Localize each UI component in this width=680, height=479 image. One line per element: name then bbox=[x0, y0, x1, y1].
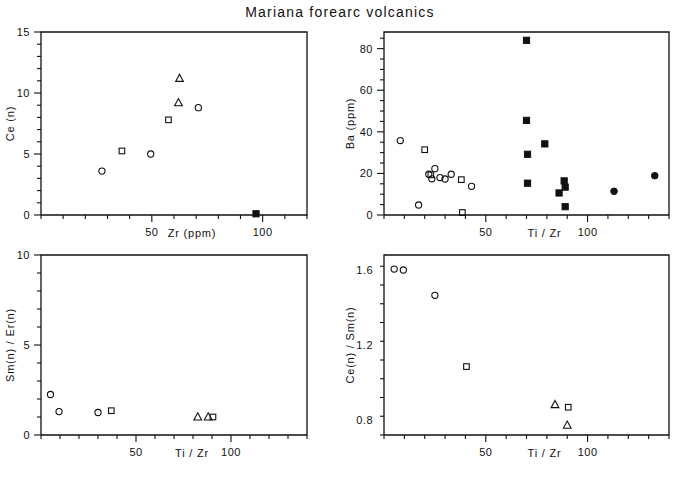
svg-text:40: 40 bbox=[360, 126, 373, 138]
data-point bbox=[448, 171, 454, 177]
svg-text:Ce(n) / Sm(n): Ce(n) / Sm(n) bbox=[344, 306, 356, 383]
data-point bbox=[562, 184, 568, 190]
panel-smer-tizr: 50100Ti / Zr0510Sm(n) / Er(n) bbox=[0, 245, 340, 479]
data-point bbox=[432, 292, 438, 298]
data-point bbox=[561, 178, 567, 184]
data-point bbox=[95, 409, 101, 415]
data-layer bbox=[397, 37, 658, 215]
data-point bbox=[432, 166, 438, 172]
data-point bbox=[391, 266, 397, 272]
data-point bbox=[397, 137, 403, 143]
data-layer bbox=[99, 74, 259, 217]
data-point bbox=[556, 190, 562, 196]
svg-text:Sm(n) / Er(n): Sm(n) / Er(n) bbox=[4, 308, 16, 382]
data-point bbox=[195, 105, 201, 111]
svg-text:Ba (ppm): Ba (ppm) bbox=[344, 98, 356, 150]
svg-text:1.2: 1.2 bbox=[356, 339, 373, 351]
data-point bbox=[563, 421, 571, 428]
series-filled-square bbox=[523, 37, 568, 210]
data-layer bbox=[391, 266, 571, 428]
svg-text:50: 50 bbox=[479, 226, 492, 238]
data-point bbox=[194, 413, 202, 420]
svg-text:100: 100 bbox=[578, 446, 598, 458]
series-open-square bbox=[119, 117, 171, 154]
data-point bbox=[468, 183, 474, 189]
series-open-circle bbox=[397, 137, 474, 208]
svg-text:10: 10 bbox=[17, 249, 30, 261]
data-point bbox=[611, 188, 618, 195]
data-point bbox=[99, 168, 105, 174]
svg-text:10: 10 bbox=[17, 87, 30, 99]
panel-cesm-tizr-svg: 50100Ti / Zr0.81.21.6Ce(n) / Sm(n) bbox=[340, 245, 680, 479]
panel-ce-zr: 50100Zr (ppm)051015Ce (n) bbox=[0, 22, 340, 262]
data-point bbox=[524, 151, 530, 157]
series-filled-square bbox=[253, 211, 259, 217]
svg-text:50: 50 bbox=[145, 226, 158, 238]
series-open-square bbox=[109, 408, 216, 420]
panel-ba-tizr-svg: 50100Ti / Zr020406080Ba (ppm) bbox=[340, 22, 680, 262]
svg-text:60: 60 bbox=[360, 84, 373, 96]
data-point bbox=[56, 409, 62, 415]
panel-cesm-tizr: 50100Ti / Zr0.81.21.6Ce(n) / Sm(n) bbox=[340, 245, 680, 479]
svg-text:0: 0 bbox=[23, 209, 30, 221]
data-point bbox=[551, 400, 559, 407]
panel-smer-tizr-svg: 50100Ti / Zr0510Sm(n) / Er(n) bbox=[0, 245, 340, 479]
data-layer bbox=[47, 391, 215, 420]
svg-text:0: 0 bbox=[23, 429, 30, 441]
data-point bbox=[464, 364, 470, 370]
data-point bbox=[562, 204, 568, 210]
svg-text:100: 100 bbox=[253, 226, 273, 238]
data-point bbox=[148, 151, 154, 157]
data-point bbox=[523, 117, 529, 123]
svg-text:0: 0 bbox=[366, 209, 373, 221]
svg-text:80: 80 bbox=[360, 43, 373, 55]
data-point bbox=[166, 117, 172, 123]
svg-text:50: 50 bbox=[479, 446, 492, 458]
svg-text:Zr (ppm): Zr (ppm) bbox=[168, 227, 217, 239]
svg-text:5: 5 bbox=[23, 339, 30, 351]
svg-text:100: 100 bbox=[221, 446, 241, 458]
data-point bbox=[253, 211, 259, 217]
svg-text:50: 50 bbox=[129, 446, 142, 458]
series-filled-circle bbox=[611, 172, 658, 194]
data-point bbox=[119, 148, 125, 154]
series-open-triangle bbox=[175, 74, 184, 106]
panel-ce-zr-svg: 50100Zr (ppm)051015Ce (n) bbox=[0, 22, 340, 262]
series-open-circle bbox=[391, 266, 438, 298]
data-point bbox=[176, 74, 184, 81]
svg-text:Ce (n): Ce (n) bbox=[4, 106, 16, 141]
data-point bbox=[175, 99, 183, 106]
svg-text:20: 20 bbox=[360, 167, 373, 179]
data-point bbox=[542, 141, 548, 147]
panel-ba-tizr: 50100Ti / Zr020406080Ba (ppm) bbox=[340, 22, 680, 262]
svg-text:0.8: 0.8 bbox=[356, 414, 373, 426]
series-open-circle bbox=[99, 105, 202, 175]
figure-title: Mariana forearc volcanics bbox=[0, 4, 680, 20]
series-open-triangle bbox=[194, 413, 212, 420]
data-point bbox=[524, 180, 530, 186]
svg-text:1.6: 1.6 bbox=[356, 264, 373, 276]
data-point bbox=[651, 172, 658, 179]
data-point bbox=[47, 391, 53, 397]
svg-text:15: 15 bbox=[17, 26, 30, 38]
data-point bbox=[109, 408, 115, 414]
series-open-circle bbox=[47, 391, 101, 415]
svg-text:Ti / Zr: Ti / Zr bbox=[528, 447, 562, 459]
data-point bbox=[459, 177, 465, 183]
data-point bbox=[523, 37, 529, 43]
data-point bbox=[565, 404, 571, 410]
svg-text:5: 5 bbox=[23, 148, 30, 160]
svg-text:100: 100 bbox=[578, 226, 598, 238]
figure-container: Mariana forearc volcanics 50100Zr (ppm)0… bbox=[0, 0, 680, 479]
data-point bbox=[400, 267, 406, 273]
series-open-square bbox=[464, 364, 571, 410]
data-point bbox=[422, 147, 428, 153]
svg-text:Ti / Zr: Ti / Zr bbox=[528, 227, 562, 239]
svg-text:Ti / Zr: Ti / Zr bbox=[175, 447, 209, 459]
data-point bbox=[416, 202, 422, 208]
